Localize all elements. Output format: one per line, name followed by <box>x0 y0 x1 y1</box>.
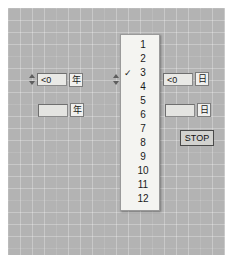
dropdown-item-label: 8 <box>140 137 146 148</box>
dropdown-item[interactable]: 10 <box>121 164 159 178</box>
month-dropdown-list[interactable]: 12✓3456789101112 <box>120 34 160 211</box>
dropdown-item[interactable]: 8 <box>121 136 159 150</box>
dropdown-item-label: 4 <box>140 81 146 92</box>
day-unit-label: 日 <box>195 72 209 86</box>
stop-button[interactable]: STOP <box>180 130 214 146</box>
dropdown-item-label: 11 <box>138 179 148 190</box>
check-icon-empty <box>124 150 132 164</box>
check-icon-empty <box>124 94 132 108</box>
check-icon-empty <box>124 178 132 192</box>
dropdown-item[interactable]: 4 <box>121 80 159 94</box>
check-icon-empty <box>124 80 132 94</box>
check-icon: ✓ <box>124 66 132 80</box>
dropdown-item-label: 12 <box>137 193 148 204</box>
year-input-unit-label: 年 <box>70 103 84 117</box>
year-input-control[interactable]: 年 <box>38 103 84 117</box>
month-spinner-icon[interactable] <box>112 72 120 87</box>
check-icon-empty <box>124 192 132 206</box>
dropdown-item-label: 6 <box>140 109 146 120</box>
day-input-control[interactable]: 日 <box>165 103 211 117</box>
dropdown-item[interactable]: ✓3 <box>121 66 159 80</box>
year-input-field[interactable] <box>38 104 68 117</box>
check-icon-empty <box>124 52 132 66</box>
dropdown-item-label: 5 <box>140 95 146 106</box>
check-icon-empty <box>124 164 132 178</box>
dropdown-item[interactable]: 5 <box>121 94 159 108</box>
check-icon-empty <box>124 122 132 136</box>
dropdown-item[interactable]: 11 <box>121 178 159 192</box>
dropdown-item[interactable]: 6 <box>121 108 159 122</box>
check-icon-empty <box>124 108 132 122</box>
screenshot-root: <0 年 <0 日 年 日 STOP 12✓3456789101112 <box>0 0 234 263</box>
dropdown-item[interactable]: 9 <box>121 150 159 164</box>
year-display-value[interactable]: <0 <box>37 73 67 86</box>
dropdown-item-label: 9 <box>140 151 146 162</box>
labview-front-panel: <0 年 <0 日 年 日 STOP 12✓3456789101112 <box>8 8 225 255</box>
dropdown-item[interactable]: 7 <box>121 122 159 136</box>
dropdown-item[interactable]: 12 <box>121 192 159 206</box>
check-icon-empty <box>124 136 132 150</box>
dropdown-item[interactable]: 1 <box>121 38 159 52</box>
day-display-value[interactable]: <0 <box>163 73 193 86</box>
year-unit-label: 年 <box>69 73 83 87</box>
dropdown-item-label: 10 <box>137 165 148 176</box>
dropdown-item-label: 3 <box>140 67 146 78</box>
day-input-unit-label: 日 <box>197 103 211 117</box>
year-spinner-icon[interactable] <box>28 72 36 87</box>
dropdown-item-label: 7 <box>140 123 146 134</box>
check-icon-empty <box>124 38 132 52</box>
dropdown-item[interactable]: 2 <box>121 52 159 66</box>
day-display-control[interactable]: <0 日 <box>163 72 209 86</box>
year-display-control[interactable]: <0 年 <box>28 72 83 87</box>
day-input-field[interactable] <box>165 104 195 117</box>
dropdown-item-label: 2 <box>140 53 146 64</box>
dropdown-item-label: 1 <box>140 39 146 50</box>
